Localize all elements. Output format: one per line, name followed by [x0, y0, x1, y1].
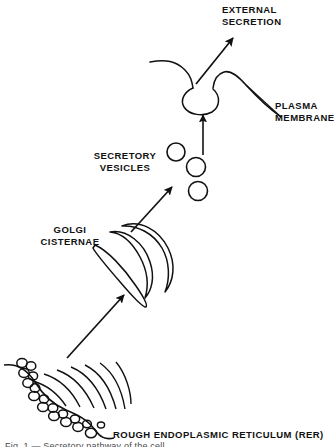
label-rough-endoplasmic-reticulum: ROUGH ENDOPLASMIC RETICULUM (RER) [113, 429, 324, 441]
ribosome [97, 422, 104, 428]
er-cisterna [71, 367, 106, 409]
plasma-membrane-curve-left [150, 61, 193, 88]
secretory-pathway-diagram: EXTERNAL SECRETION PLASMA MEMBRANE SECRE… [0, 0, 334, 447]
label-external-secretion: EXTERNAL SECRETION [222, 4, 281, 27]
secretory-vesicles-group [167, 143, 208, 201]
arrow-er-to-golgi [67, 295, 124, 358]
golgi-cisterna [110, 232, 152, 298]
er-cisterna [116, 362, 131, 404]
label-plasma-membrane: PLASMA MEMBRANE [275, 100, 334, 123]
label-secretory-vesicles: SECRETORY VESICLES [86, 150, 164, 173]
label-golgi-cisternae: GOLGI CISTERNAE [34, 224, 106, 247]
plasma-membrane-curve-right [213, 72, 281, 117]
secretory-vesicle [189, 182, 208, 201]
fusing-vesicle [182, 88, 218, 115]
er-cisterna [85, 365, 116, 409]
ribosome [85, 428, 96, 438]
secretory-vesicle [187, 158, 206, 177]
ribosome [70, 415, 79, 423]
caption-cut-off: Fig. 1 — Secretory pathway of the cell [5, 441, 165, 447]
rough-er-group [4, 359, 131, 439]
ribosome [23, 379, 33, 388]
secretory-vesicle [167, 143, 185, 161]
plasma-membrane-group [150, 61, 281, 117]
ribosome [73, 423, 83, 432]
ribosome [38, 402, 49, 411]
arrow-external-secretion [196, 38, 233, 84]
er-cisterna [44, 374, 80, 407]
arrow-golgi-to-vesicles [131, 187, 172, 232]
